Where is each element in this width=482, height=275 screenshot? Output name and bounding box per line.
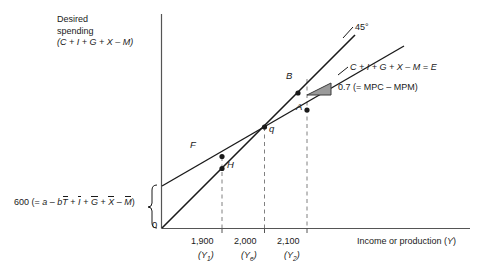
figure-canvas: Desired spending (C + I + G + X – M) 600… xyxy=(0,0,482,275)
slope-triangle xyxy=(307,83,331,95)
point-label-B: B xyxy=(286,70,292,81)
point-q-marker xyxy=(262,124,267,129)
x-tick-label-1900: 1,900 xyxy=(191,236,214,248)
forty-five-degree-label: 45° xyxy=(355,22,369,34)
y-axis-title-line2: spending xyxy=(57,26,133,38)
intercept-value: 600 xyxy=(14,197,29,207)
slope-label: 0.7 (= MPC – MPM) xyxy=(338,82,418,94)
x-tick-symbol-y2: (Y2) xyxy=(284,250,300,264)
point-label-F: F xyxy=(190,139,196,150)
point-label-H: H xyxy=(227,159,234,170)
point-label-A: A xyxy=(296,101,302,112)
y-axis-title: Desired spending (C + I + G + X – M) xyxy=(57,14,133,49)
x-tick-symbol-y1: (Y1) xyxy=(198,250,214,264)
y-axis-title-line3: (C + I + G + X – M) xyxy=(57,37,133,49)
forty-five-degree-line xyxy=(162,35,355,228)
point-H-marker xyxy=(219,166,224,171)
forty-five-leader xyxy=(343,27,353,38)
point-label-q: q xyxy=(269,123,274,134)
intercept-label: 600 (= a – bT + I + G + X – M) xyxy=(14,197,135,209)
point-B-marker xyxy=(295,90,300,95)
x-tick-symbol-ye: (Ye) xyxy=(241,250,257,264)
expenditure-line-label: C + I + G + X – M = E xyxy=(350,62,437,74)
expenditure-leader xyxy=(338,67,348,75)
x-tick-label-2100: 2,100 xyxy=(277,236,300,248)
point-F-marker xyxy=(219,154,224,159)
origin-label: 0 xyxy=(152,219,157,231)
intercept-expression: (= a – bT + I + G + X – M) xyxy=(29,197,135,207)
x-axis-title: Income or production (Y) xyxy=(357,236,456,248)
x-tick-label-2000: 2,000 xyxy=(234,236,257,248)
y-axis-title-line1: Desired xyxy=(57,14,133,26)
point-A-marker xyxy=(304,107,309,112)
